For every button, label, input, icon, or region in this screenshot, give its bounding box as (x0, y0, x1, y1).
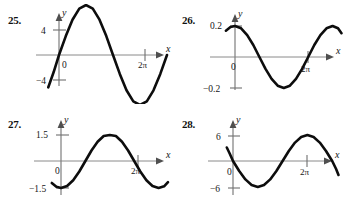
problem-figure-26: 26. y x 0 0.2 −0.2 2π (174, 0, 348, 107)
origin-label-28: 0 (227, 167, 232, 177)
x-tick-label-26: 2π (301, 64, 311, 74)
x-axis-label-26: x (335, 45, 341, 56)
problem-number-25: 25. (8, 14, 21, 26)
y-axis-label-25: y (61, 7, 67, 18)
x-axis-label-27: x (165, 149, 171, 160)
origin-label-27: 0 (55, 166, 60, 176)
x-tick-label-28: 2π (300, 167, 310, 177)
origin-label-25: 0 (62, 60, 67, 70)
y-top-tick-label-26: 0.2 (210, 21, 222, 31)
x-axis-label-28: x (334, 149, 340, 160)
y-axis-label-26: y (237, 8, 243, 19)
x-axis-arrowhead-25 (156, 52, 164, 59)
graph-28: y x 0 6 −6 2π (202, 111, 346, 211)
y-top-tick-label-25: 4 (41, 26, 46, 36)
problem-figure-25: 25. y x 0 4 −4 2π (0, 0, 174, 107)
problem-figure-27: 27. y x 0 1.5 −1.5 2π (0, 107, 174, 214)
y-bottom-tick-label-25: −4 (36, 76, 46, 86)
problem-number-26: 26. (182, 14, 195, 26)
problem-figure-28: 28. y x 0 6 −6 2π (174, 107, 348, 214)
x-axis-arrowhead-27 (156, 158, 164, 165)
x-axis-arrowhead-26 (326, 54, 334, 61)
origin-label-26: 0 (231, 62, 236, 72)
y-bottom-tick-label-26: −0.2 (203, 84, 220, 94)
x-axis-label-25: x (165, 43, 171, 54)
problem-number-27: 27. (8, 118, 21, 130)
problem-number-28: 28. (182, 118, 195, 130)
y-axis-label-28: y (235, 114, 241, 125)
x-tick-label-27: 2π (131, 166, 141, 176)
graph-26: y x 0 0.2 −0.2 2π (202, 4, 346, 104)
graph-25: y x 0 4 −4 2π (28, 4, 172, 104)
y-bottom-tick-label-28: −6 (210, 184, 220, 194)
x-tick-label-25: 2π (138, 60, 148, 70)
y-top-tick-label-27: 1.5 (36, 130, 48, 140)
y-axis-label-27: y (63, 114, 69, 125)
figure-page: 25. y x 0 4 −4 2π (0, 0, 348, 214)
y-top-tick-label-28: 6 (216, 132, 221, 142)
graph-27: y x 0 1.5 −1.5 2π (28, 111, 172, 211)
y-bottom-tick-label-27: −1.5 (29, 184, 46, 194)
